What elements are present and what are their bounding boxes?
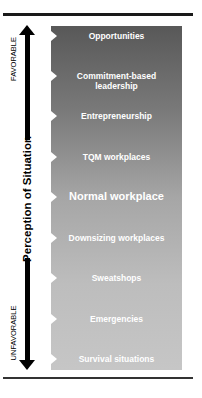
item-commitment-based-leadership: Commitment-based leadership (51, 71, 182, 91)
situation-spectrum-panel: Opportunities Commitment-based leadershi… (51, 26, 182, 370)
item-opportunities: Opportunities (51, 31, 182, 41)
axis-label: Perception of Situation (21, 136, 33, 262)
item-tqm-workplaces: TQM workplaces (51, 152, 182, 162)
item-commitment-line1: Commitment-based (51, 71, 182, 81)
item-downsizing-workplaces: Downsizing workplaces (51, 233, 182, 243)
item-normal-workplace: Normal workplace (51, 190, 182, 202)
unfavorable-label: UNFAVORABLE (9, 306, 18, 361)
item-sweatshops: Sweatshops (51, 273, 182, 283)
item-entrepreneurship: Entrepreneurship (51, 111, 182, 121)
bottom-rule (3, 377, 193, 379)
item-emergencies: Emergencies (51, 314, 182, 324)
item-survival-situations: Survival situations (51, 354, 182, 364)
arrow-down-icon (19, 360, 35, 370)
item-commitment-line2: leadership (51, 81, 182, 91)
top-rule (3, 13, 193, 16)
favorable-label: FAVORABLE (9, 37, 18, 81)
